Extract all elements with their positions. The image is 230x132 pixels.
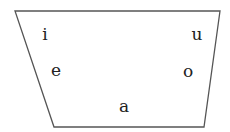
vowel-i-label: i <box>42 26 47 43</box>
vowel-o-label: o <box>183 63 193 80</box>
vowel-u-label: u <box>192 26 203 43</box>
vowel-a-label: a <box>119 98 129 115</box>
vowel-chart: i u e o a <box>0 0 230 132</box>
vowel-trapezoid-outline <box>0 0 230 132</box>
vowel-e-label: e <box>51 62 61 79</box>
